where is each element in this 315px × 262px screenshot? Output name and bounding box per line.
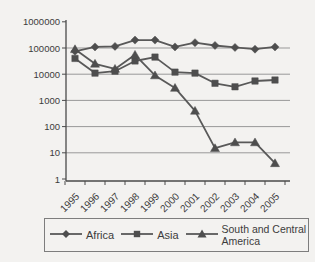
diamond-marker (91, 43, 99, 51)
x-tick-label: 2001 (178, 190, 202, 214)
x-tick-label: 2005 (258, 190, 282, 214)
legend-label-africa: Africa (86, 229, 114, 241)
triangle-marker (131, 50, 140, 58)
square-marker (192, 70, 198, 76)
diamond-marker (171, 43, 179, 51)
y-tick-label: 1000000 (23, 16, 60, 27)
x-tick-label: 1996 (78, 190, 102, 214)
diamond-marker (231, 43, 239, 51)
legend-item-africa: Africa (50, 228, 114, 242)
diamond-marker (251, 45, 259, 53)
y-tick-label: 1000 (39, 95, 60, 106)
square-marker-icon (121, 228, 153, 242)
x-tick-label: 1997 (98, 190, 122, 214)
square-marker (172, 69, 178, 75)
diamond-marker-icon (50, 228, 82, 242)
diamond-marker (271, 43, 279, 51)
y-tick-label: 1 (55, 174, 60, 185)
square-marker (272, 77, 278, 83)
square-marker (72, 55, 78, 61)
square-marker (132, 58, 138, 64)
y-tick-label: 10000 (34, 69, 60, 80)
diamond-marker (131, 36, 139, 44)
y-tick-label: 10 (49, 147, 60, 158)
line-chart-plot: 1000000100000100001000100101199519961997… (0, 0, 315, 215)
square-marker (152, 54, 158, 60)
x-tick-label: 1999 (138, 190, 162, 214)
legend-item-south-central-america: South and Central America (186, 223, 315, 247)
diamond-marker (191, 39, 199, 47)
x-tick-label: 2004 (238, 190, 262, 214)
triangle-marker (71, 45, 80, 53)
diamond-marker (151, 36, 159, 44)
x-tick-label: 2000 (158, 190, 182, 214)
triangle-marker-icon (186, 228, 218, 242)
legend-item-asia: Asia (121, 228, 178, 242)
square-marker (212, 80, 218, 86)
legend-label-south-central-america: South and Central America (222, 223, 315, 247)
y-tick-label: 100 (44, 121, 60, 132)
x-tick-label: 1995 (58, 190, 82, 214)
legend-label-asia: Asia (157, 229, 178, 241)
square-marker (92, 70, 98, 76)
series-line-south-and-central-america (75, 49, 275, 163)
square-marker (252, 78, 258, 84)
x-tick-label: 2003 (218, 190, 242, 214)
diamond-marker (111, 42, 119, 50)
triangle-marker (171, 83, 180, 91)
x-tick-label: 2002 (198, 190, 222, 214)
chart-canvas: 1000000100000100001000100101199519961997… (0, 0, 315, 262)
x-tick-label: 1998 (118, 190, 142, 214)
chart-legend: Africa Asia South and Central America (44, 218, 309, 252)
y-tick-label: 100000 (28, 43, 60, 54)
square-marker (232, 84, 238, 90)
